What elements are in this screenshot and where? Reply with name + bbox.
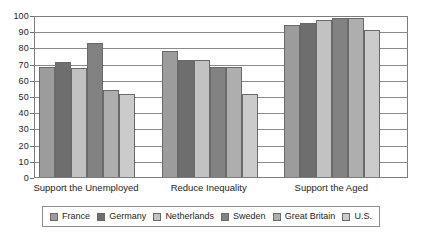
x-axis-category-label: Reduce Inequality: [171, 182, 247, 193]
y-axis-tick-label: 80: [19, 44, 29, 53]
legend-swatch-icon: [273, 213, 281, 221]
y-axis-tick-label: 50: [19, 93, 29, 102]
bar: [332, 18, 348, 177]
legend-item[interactable]: Great Britain: [273, 212, 336, 221]
bar-group-gap: [135, 176, 162, 177]
bar: [55, 62, 71, 177]
bar: [87, 43, 103, 177]
legend-label: Germany: [109, 212, 146, 221]
y-axis: 1009080706050403020100: [0, 16, 34, 178]
x-axis-category-label: Support the Aged: [295, 182, 368, 193]
legend-item[interactable]: U.S.: [342, 212, 372, 221]
legend-swatch-icon: [221, 213, 229, 221]
bar: [119, 94, 135, 177]
y-axis-tick-label: 10: [19, 158, 29, 167]
legend-item[interactable]: Germany: [97, 212, 146, 221]
bar: [242, 94, 258, 177]
plot-area: [34, 16, 408, 178]
y-axis-tick-label: 100: [13, 12, 29, 21]
legend-swatch-icon: [342, 213, 350, 221]
bar: [178, 60, 194, 177]
y-axis-tick-label: 0: [24, 174, 29, 183]
bar-group: [284, 17, 380, 177]
legend-swatch-icon: [97, 213, 105, 221]
legend-item[interactable]: Sweden: [221, 212, 266, 221]
bar: [210, 67, 226, 177]
bar: [162, 51, 178, 177]
legend: FranceGermanyNetherlandsSwedenGreat Brit…: [42, 206, 380, 227]
y-axis-tick-label: 30: [19, 125, 29, 134]
bar: [226, 67, 242, 177]
legend-item[interactable]: France: [50, 212, 90, 221]
legend-label: Netherlands: [165, 212, 214, 221]
bar-chart: 1009080706050403020100 Support the Unemp…: [0, 0, 421, 243]
legend-item[interactable]: Netherlands: [153, 212, 214, 221]
bar-group: [39, 17, 135, 177]
legend-label: France: [62, 212, 90, 221]
bar: [194, 60, 210, 177]
x-axis-labels: Support the UnemployedReduce InequalityS…: [34, 182, 408, 196]
y-axis-tick-label: 40: [19, 109, 29, 118]
bar-groups: [35, 17, 407, 177]
bar: [39, 67, 55, 177]
y-axis-tick-mark: [30, 178, 34, 179]
bar: [103, 90, 119, 177]
bar-group: [162, 17, 258, 177]
bar: [316, 20, 332, 177]
legend-label: U.S.: [354, 212, 372, 221]
bar-group-gap: [258, 176, 285, 177]
y-axis-tick-label: 60: [19, 77, 29, 86]
legend-label: Sweden: [233, 212, 266, 221]
legend-label: Great Britain: [285, 212, 336, 221]
bar: [348, 18, 364, 177]
legend-swatch-icon: [50, 213, 58, 221]
y-axis-tick-label: 20: [19, 142, 29, 151]
bar: [364, 30, 380, 177]
bar: [300, 23, 316, 177]
bar-group-gap: [380, 176, 407, 177]
x-axis-category-label: Support the Unemployed: [33, 182, 138, 193]
y-axis-tick-label: 90: [19, 28, 29, 37]
bar: [284, 25, 300, 177]
bar: [71, 68, 87, 177]
y-axis-tick-label: 70: [19, 61, 29, 70]
legend-swatch-icon: [153, 213, 161, 221]
